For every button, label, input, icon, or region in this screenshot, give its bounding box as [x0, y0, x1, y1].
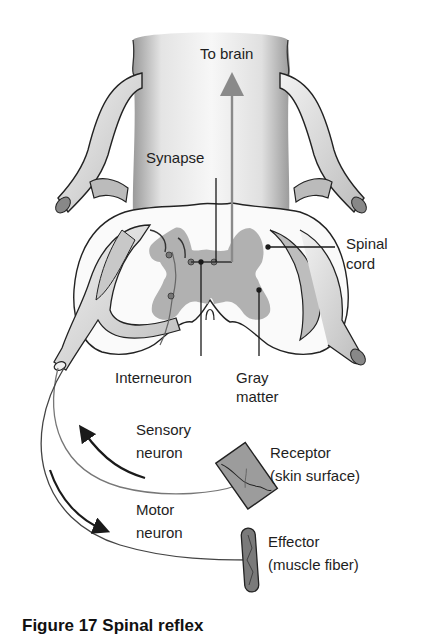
label-receptor-line2: (skin surface) [270, 466, 360, 485]
label-to-brain: To brain [200, 44, 253, 63]
label-motor-neuron-line2: neuron [136, 523, 183, 542]
label-effector-line1: Effector [268, 532, 319, 551]
label-gray-matter-line2: matter [236, 387, 279, 406]
label-sensory-neuron-line1: Sensory [136, 420, 191, 439]
label-interneuron: Interneuron [115, 368, 192, 387]
effector-muscle [241, 528, 259, 593]
label-synapse: Synapse [146, 148, 204, 167]
receptor-skin [216, 443, 278, 510]
label-gray-matter-line1: Gray [236, 368, 269, 387]
label-effector-line2: (muscle fiber) [268, 555, 359, 574]
label-spinal-cord-line2: cord [346, 254, 375, 273]
figure-caption: Figure 17 Spinal reflex [22, 616, 203, 636]
label-motor-neuron-line1: Motor [136, 500, 174, 519]
label-sensory-neuron-line2: neuron [136, 443, 183, 462]
label-spinal-cord-line1: Spinal [346, 234, 388, 253]
label-receptor-line1: Receptor [270, 443, 331, 462]
